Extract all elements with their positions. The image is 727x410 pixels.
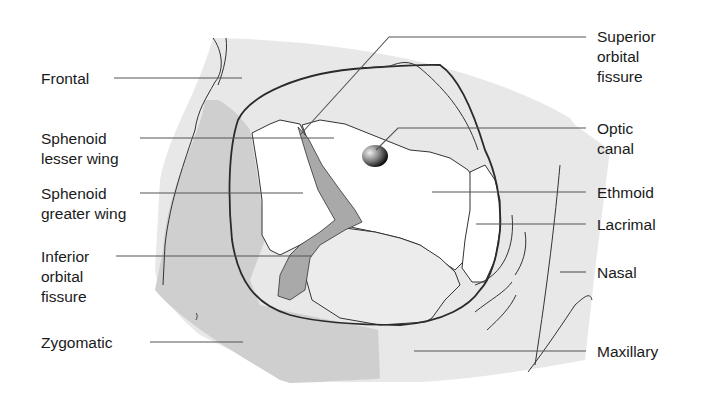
optic-canal-shape (362, 145, 388, 167)
label-optic-canal: Optic canal (597, 120, 638, 157)
label-frontal: Frontal (41, 70, 89, 87)
label-zygomatic: Zygomatic (41, 334, 113, 351)
label-sphenoid-greater-wing: Sphenoid greater wing (41, 185, 126, 222)
label-sphenoid-lesser-wing: Sphenoid lesser wing (41, 130, 119, 167)
label-maxillary: Maxillary (597, 343, 658, 360)
label-lacrimal: Lacrimal (597, 216, 656, 233)
orbit-bones-diagram: Frontal Sphenoid lesser wing Sphenoid gr… (0, 0, 727, 410)
label-superior-orbital-fissure: Superior orbital fissure (597, 28, 660, 85)
label-inferior-orbital-fissure: Inferior orbital fissure (41, 248, 94, 305)
label-ethmoid: Ethmoid (597, 184, 654, 201)
label-nasal: Nasal (597, 264, 637, 281)
